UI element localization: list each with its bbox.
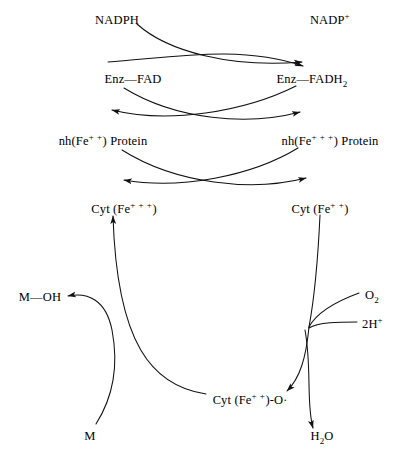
label-cyt-fe3-pre: Cyt (Fe [91, 202, 130, 216]
label-nh-fe2-protein: nh(Fe+ +) Protein [59, 135, 148, 148]
label-nadp-plus-sup: + [345, 11, 351, 21]
label-h2o: H2O [310, 430, 333, 443]
label-2h-plus: 2H+ [362, 318, 383, 331]
label-nadp-plus: NADP+ [310, 14, 350, 27]
label-o2-sub: 2 [374, 295, 379, 305]
label-enz-fad: Enz—FAD [104, 73, 161, 86]
label-nadp-plus-text: NADP [310, 13, 345, 27]
label-cyt-fe2-sup: + + [330, 200, 344, 210]
label-cyt-fe2-o-pre: Cyt (Fe [213, 393, 252, 407]
label-nh-fe3-sup: + + + [311, 132, 333, 142]
label-cyt-fe2-o-radical: Cyt (Fe+ +)-O· [213, 394, 288, 407]
label-nadph: NADPH [95, 14, 139, 27]
arrow-nhfe2-to-nhfe3 [124, 88, 300, 119]
label-cyt-fe2-post: ) [344, 202, 348, 216]
arrow-nhfe3-to-nhfe2 [124, 148, 298, 183]
arrow-cytfe2o-to-cytfe3 [113, 216, 206, 394]
label-enz-fadh2: Enz—FADH2 [277, 73, 348, 86]
label-nh-fe3-post: ) Protein [334, 134, 379, 148]
arrow-enzfadh2-to-enzfad [112, 86, 296, 116]
label-o2: O2 [365, 289, 379, 302]
label-nh-fe2-pre: nh(Fe [59, 134, 89, 148]
label-nh-fe3-protein: nh(Fe+ + +) Protein [282, 135, 379, 148]
label-h2o-post: O [324, 429, 333, 443]
arrow-2h-to-node [309, 322, 357, 328]
label-cyt-fe2-o-sup: + + [252, 391, 266, 401]
label-2h-plus-sup: + [378, 315, 384, 325]
arrow-cytfe2-down-to-node [309, 215, 320, 327]
arrow-layer [0, 0, 396, 455]
label-enz-fadh2-sub: 2 [343, 79, 348, 89]
label-cyt-fe2-pre: Cyt (Fe [291, 202, 330, 216]
label-h2o-pre: H [310, 429, 319, 443]
label-m: M [84, 430, 95, 443]
label-cyt-fe3-sup: + + + [130, 200, 152, 210]
label-cyt-fe3: Cyt (Fe+ + +) [91, 203, 156, 216]
label-enz-fadh2-text: Enz—FADH [277, 72, 343, 86]
arrow-cytfe3-to-cytfe2 [122, 150, 306, 185]
arrow-m-to-moh [68, 295, 115, 424]
label-cyt-fe2-o-post: )-O [265, 393, 283, 407]
label-o2-text: O [365, 288, 374, 302]
label-m-oh: M—OH [19, 291, 61, 304]
label-cyt-fe3-post: ) [152, 202, 156, 216]
label-cyt-fe2-o-radical-dot: · [283, 393, 287, 407]
label-cyt-fe2: Cyt (Fe+ +) [291, 203, 348, 216]
label-nh-fe2-post: ) Protein [103, 134, 148, 148]
label-2h-plus-text: 2H [362, 317, 378, 331]
label-nh-fe2-sup: + + [89, 132, 103, 142]
reaction-diagram: NADPH NADP+ Enz—FAD Enz—FADH2 nh(Fe+ +) … [0, 0, 396, 455]
label-nh-fe3-pre: nh(Fe [282, 134, 312, 148]
